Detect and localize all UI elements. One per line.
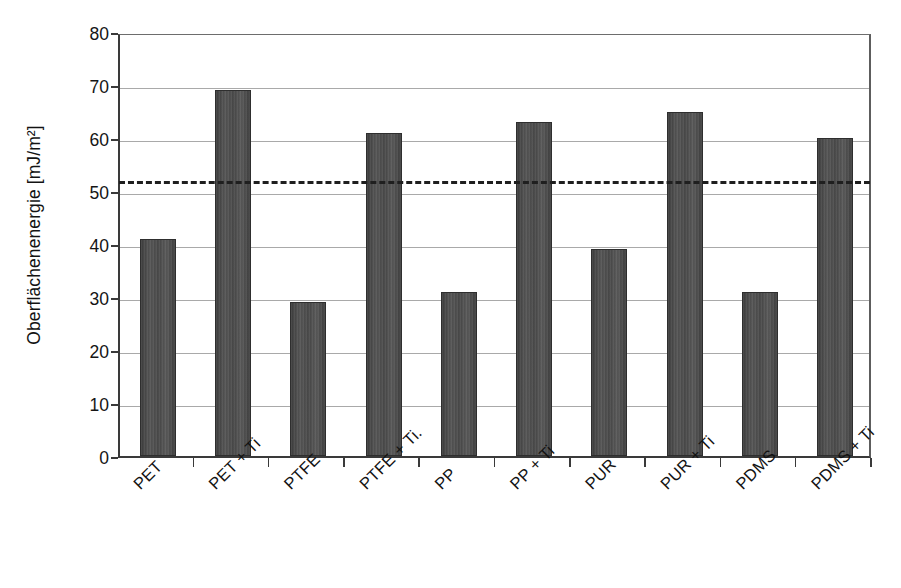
y-tick-mark	[111, 192, 118, 194]
y-tick-label: 10	[48, 395, 118, 416]
y-tick-label: 40	[48, 236, 118, 257]
bar	[215, 90, 251, 456]
y-tick-mark	[111, 351, 118, 353]
y-tick-label: 20	[48, 342, 118, 363]
y-tick-label: 30	[48, 289, 118, 310]
bar-chart-figure: Oberflächenenergie [mJ/m²] 0102030405060…	[0, 0, 901, 588]
y-tick-label: 70	[48, 77, 118, 98]
bar	[441, 292, 477, 456]
y-tick-mark	[111, 245, 118, 247]
bars-layer	[120, 35, 869, 456]
bar	[140, 239, 176, 456]
y-tick-label: 80	[48, 24, 118, 45]
y-axis-ticks: 01020304050607080	[38, 34, 118, 458]
x-axis-category-labels: PETPET + TiPTFEPTFE + Ti.PPPP + TiPURPUR…	[118, 458, 901, 588]
y-tick-label: 60	[48, 130, 118, 151]
y-tick-mark	[111, 457, 118, 459]
bar	[817, 138, 853, 456]
y-tick-mark	[111, 86, 118, 88]
x-tick-label: PET	[130, 457, 167, 494]
y-tick-mark	[111, 298, 118, 300]
y-tick-mark	[111, 33, 118, 35]
plot-area	[118, 34, 871, 458]
x-tick-label: PP	[431, 464, 460, 493]
bar	[591, 249, 627, 456]
bar	[667, 112, 703, 457]
x-tick-label: PUR	[581, 455, 619, 493]
bar	[290, 302, 326, 456]
y-tick-label: 0	[48, 448, 118, 469]
bar	[742, 292, 778, 456]
y-tick-label: 50	[48, 183, 118, 204]
y-tick-mark	[111, 139, 118, 141]
y-tick-mark	[111, 404, 118, 406]
bar	[516, 122, 552, 456]
threshold-reference-line	[119, 181, 870, 184]
